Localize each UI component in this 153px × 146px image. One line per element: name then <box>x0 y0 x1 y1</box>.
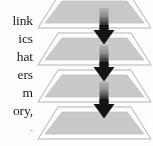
layered-stack-diagram <box>36 0 153 146</box>
text-line: hat <box>17 50 33 63</box>
text-line: ory, <box>13 104 33 117</box>
clipped-body-text-column: link ics hat ers m ory, - <box>0 0 36 146</box>
text-line: m <box>23 86 33 99</box>
scanned-figure: link ics hat ers m ory, - <box>0 0 153 146</box>
text-line: ers <box>18 68 33 81</box>
text-line: ics <box>18 32 33 45</box>
text-line-faint: - <box>30 124 33 137</box>
down-arrow-1 <box>93 8 115 46</box>
down-arrow-3 <box>93 82 115 120</box>
down-arrow-2 <box>93 45 115 83</box>
text-line: link <box>12 14 33 27</box>
